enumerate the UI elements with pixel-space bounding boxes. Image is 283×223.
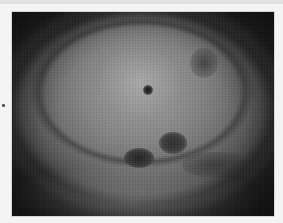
edge-marker [2, 104, 5, 107]
lens-vignette [12, 12, 274, 216]
endoscopy-photo [12, 12, 274, 216]
top-border-strip [0, 0, 283, 4]
image-canvas [0, 0, 283, 223]
